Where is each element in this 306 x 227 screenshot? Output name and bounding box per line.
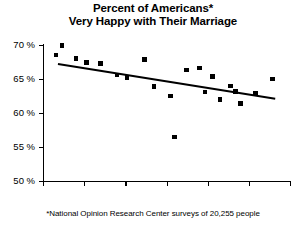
data-point (270, 77, 275, 82)
y-axis-label: 70 % (0, 40, 35, 50)
data-point (142, 57, 147, 62)
data-point (74, 56, 79, 61)
data-point (54, 53, 59, 58)
data-point (60, 43, 65, 48)
y-axis-label: 55 % (0, 142, 35, 152)
y-axis-tick (39, 45, 43, 46)
data-point (197, 66, 202, 71)
plot-area: 50 %55 %60 %65 %70 %19701975198019851990… (43, 45, 290, 181)
data-point (172, 135, 177, 140)
data-point (125, 75, 130, 80)
data-point (238, 101, 243, 106)
data-point (152, 84, 157, 89)
y-axis-tick (39, 113, 43, 114)
data-point (84, 60, 89, 65)
data-point (168, 94, 173, 99)
chart-title-line2: Very Happy with Their Marriage (0, 15, 306, 28)
trend-line (58, 63, 276, 99)
chart-footnote: *National Opinion Research Center survey… (0, 209, 306, 218)
data-point (184, 68, 189, 73)
chart-container: Percent of Americans* Very Happy with Th… (0, 0, 306, 227)
data-point (218, 97, 223, 102)
y-axis-label: 65 % (0, 74, 35, 84)
data-point (233, 89, 238, 94)
y-axis-tick (39, 79, 43, 80)
y-axis-tick (39, 147, 43, 148)
x-axis-tick (249, 182, 250, 186)
data-point (228, 84, 233, 89)
chart-title-line1: Percent of Americans* (93, 2, 213, 14)
x-axis-tick (125, 182, 126, 186)
x-axis-tick (84, 182, 85, 186)
y-axis-label: 50 % (0, 176, 35, 186)
x-axis-tick (208, 182, 209, 186)
data-point (115, 73, 120, 78)
data-point (203, 90, 208, 95)
chart-title: Percent of Americans* Very Happy with Th… (0, 2, 306, 27)
data-point (98, 61, 103, 66)
y-axis-label: 60 % (0, 108, 35, 118)
x-axis-tick (43, 182, 44, 186)
x-axis-tick (167, 182, 168, 186)
x-axis-tick (290, 182, 291, 186)
data-point (210, 74, 215, 79)
data-point (253, 91, 258, 96)
